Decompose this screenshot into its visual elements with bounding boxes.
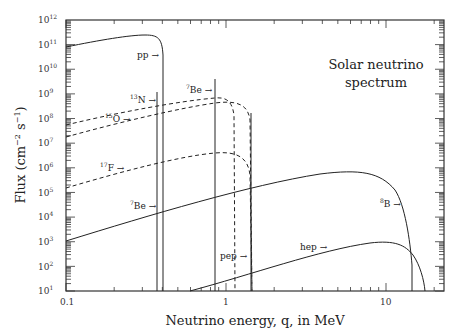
ytick-10: 1010 xyxy=(38,62,57,74)
ytick-2: 102 xyxy=(38,260,53,272)
ann-17f: 17F → xyxy=(100,161,125,173)
y-tick-labels: 101 102 103 104 105 106 107 108 109 1010… xyxy=(38,13,57,296)
ytick-12: 1012 xyxy=(38,13,57,25)
ann-15o: 15O → xyxy=(105,112,131,124)
ytick-8: 108 xyxy=(38,112,53,124)
solar-neutrino-chart: 101 102 103 104 105 106 107 108 109 1010… xyxy=(0,0,455,336)
ann-hep: hep → xyxy=(300,242,328,252)
ann-pp: pp → xyxy=(137,50,159,60)
xtick-1: 1 xyxy=(223,297,229,307)
curve-15o xyxy=(66,102,252,291)
curve-8b xyxy=(66,172,412,291)
dashed-curves xyxy=(66,98,252,291)
ytick-11: 1011 xyxy=(38,38,57,50)
ytick-1: 101 xyxy=(38,284,53,296)
curve-13n xyxy=(66,98,235,291)
xtick-0-1: 0.1 xyxy=(60,297,74,307)
ytick-6: 106 xyxy=(38,161,53,173)
ann-7be-top: 7Be → xyxy=(186,83,213,95)
ytick-9: 109 xyxy=(38,87,53,99)
xtick-10: 10 xyxy=(380,297,392,307)
chart-title-line1: Solar neutrino xyxy=(328,57,423,72)
ytick-4: 104 xyxy=(38,210,53,222)
x-axis-title: Neutrino energy, q, in MeV xyxy=(165,313,345,328)
ann-pep: pep → xyxy=(220,251,248,261)
ann-8b: 8B → xyxy=(380,197,401,209)
y-axis-title: Flux (cm−2 s−1) xyxy=(13,106,28,203)
chart-title-line2: spectrum xyxy=(345,75,407,90)
x-tick-labels: 0.1 1 10 xyxy=(60,297,392,307)
ytick-7: 107 xyxy=(38,136,53,148)
ytick-3: 103 xyxy=(38,235,53,247)
ann-7be-low: 7Be → xyxy=(130,199,157,211)
ytick-5: 105 xyxy=(38,186,53,198)
ann-13n: 13N → xyxy=(130,93,156,105)
curve-17f xyxy=(66,153,252,291)
